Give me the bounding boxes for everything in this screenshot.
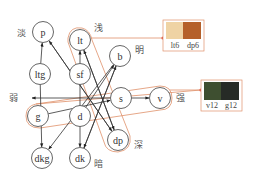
- node-v: v: [150, 88, 171, 109]
- node-dp: dp: [108, 130, 129, 151]
- node-lt: lt: [70, 30, 91, 51]
- node-label: dp: [113, 135, 123, 146]
- node-label: lt: [77, 35, 83, 46]
- node-s: s: [111, 88, 132, 109]
- node-label: dkg: [35, 153, 50, 164]
- node-label: b: [118, 51, 123, 62]
- node-label: d: [78, 111, 83, 122]
- node-dkg: dkg: [32, 148, 53, 169]
- node-sf: sf: [70, 64, 91, 85]
- node-ltg: ltg: [30, 64, 51, 85]
- swatch-label-lt6: lt6: [171, 41, 179, 50]
- node-label: dk: [75, 153, 85, 164]
- swatch-box-v-g: v12 g12: [201, 80, 242, 111]
- label-pale: 淡: [17, 28, 26, 38]
- node-b: b: [110, 46, 131, 67]
- label-bright: 明: [135, 45, 144, 55]
- label-weak: 弱: [9, 93, 18, 103]
- node-g: g: [28, 106, 49, 127]
- node-dk: dk: [70, 148, 91, 169]
- node-label: v: [158, 93, 163, 104]
- node-label: sf: [76, 69, 84, 80]
- node-label: g: [36, 111, 41, 122]
- label-dark: 暗: [94, 158, 103, 169]
- swatch-label-v12: v12: [206, 101, 218, 110]
- label-light: 浅: [94, 22, 103, 33]
- edge-ltg-to-p: [41, 43, 42, 64]
- swatch-v12: [204, 82, 221, 100]
- label-deep: 深: [134, 140, 143, 150]
- node-label: p: [41, 27, 46, 38]
- swatch-dp6: [183, 22, 201, 39]
- swatch-box-lt-dp: lt6 dp6: [163, 20, 204, 51]
- node-label: ltg: [35, 69, 46, 80]
- swatch-label-dp6: dp6: [187, 41, 199, 50]
- node-label: s: [119, 93, 123, 104]
- highlight-g-v: [26, 86, 172, 128]
- node-d: d: [70, 106, 91, 127]
- swatch-label-g12: g12: [225, 101, 237, 110]
- node-p: p: [33, 22, 54, 43]
- swatch-g12: [221, 82, 239, 100]
- tone-diagram: pltltgsfbsvgddpdkgdk 淡 浅 明 弱 强 深 暗 lt6 d…: [0, 0, 255, 179]
- swatch-lt6: [166, 22, 183, 39]
- label-strong: 强: [176, 93, 185, 103]
